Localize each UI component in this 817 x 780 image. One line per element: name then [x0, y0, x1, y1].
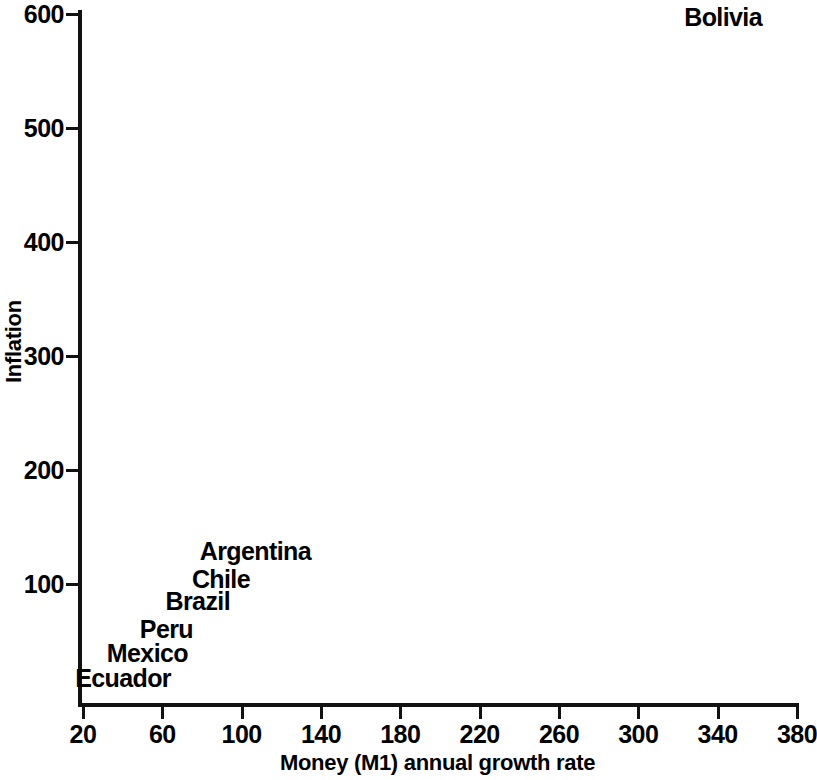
x-tick-mark: [558, 707, 561, 719]
data-point-label: Brazil: [166, 589, 230, 614]
x-tick-mark: [161, 707, 164, 719]
x-tick-label: 140: [301, 722, 341, 747]
y-tick-label: 500: [24, 116, 64, 141]
data-point-label: Mexico: [107, 641, 188, 666]
x-tick-label: 20: [70, 722, 97, 747]
x-tick-mark: [82, 707, 85, 719]
x-tick-mark: [241, 707, 244, 719]
data-point-label: Ecuador: [75, 666, 171, 691]
x-tick-mark: [320, 707, 323, 719]
x-tick-label: 260: [539, 722, 579, 747]
x-tick-mark: [637, 707, 640, 719]
x-tick-mark: [399, 707, 402, 719]
x-axis-line: [78, 703, 799, 707]
y-axis-title: Inflation: [1, 303, 27, 383]
y-tick-label: 200: [24, 458, 64, 483]
x-tick-mark: [717, 707, 720, 719]
x-tick-label: 300: [618, 722, 658, 747]
y-tick-label: 400: [24, 230, 64, 255]
data-point-label: Argentina: [200, 539, 311, 564]
y-tick-mark: [66, 469, 79, 472]
y-tick-mark: [66, 127, 79, 130]
x-tick-label: 380: [777, 722, 817, 747]
x-tick-label: 60: [149, 722, 176, 747]
y-tick-mark: [66, 241, 79, 244]
x-tick-label: 340: [698, 722, 738, 747]
x-tick-label: 180: [380, 722, 420, 747]
y-tick-label: 600: [24, 2, 64, 27]
y-tick-mark: [66, 13, 79, 16]
y-tick-label: 300: [24, 344, 64, 369]
y-tick-mark: [66, 583, 79, 586]
x-tick-label: 220: [460, 722, 500, 747]
y-tick-mark: [66, 355, 79, 358]
x-tick-mark: [479, 707, 482, 719]
data-point-label: Bolivia: [684, 5, 762, 30]
y-axis-line: [78, 10, 82, 707]
y-tick-label: 100: [24, 572, 64, 597]
x-tick-mark: [796, 707, 799, 719]
x-axis-title: Money (M1) annual growth rate: [0, 750, 809, 776]
x-tick-label: 100: [222, 722, 262, 747]
